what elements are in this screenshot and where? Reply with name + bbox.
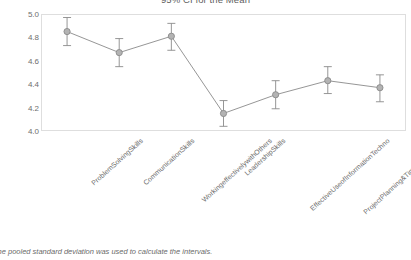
y-axis-tick: 5.0 (9, 10, 39, 19)
chart-title: 95% CI for the Mean (0, 0, 411, 5)
data-point-marker (377, 85, 383, 91)
x-axis-category-label: ProblemSolvingSkills (90, 137, 144, 187)
x-axis-category-label: WorkingeffectivelywithOthers (201, 137, 274, 203)
data-point-marker (220, 110, 226, 116)
y-axis-tick: 4.6 (9, 56, 39, 65)
y-axis-tick: 4.0 (9, 127, 39, 136)
x-axis-category-label: ProjectPlanning&TimeManagemen (362, 137, 411, 215)
chart-footnote: The pooled standard deviation was used t… (0, 247, 212, 256)
data-point-marker (273, 92, 279, 98)
data-point-marker (168, 33, 174, 39)
y-axis-tick: 4.2 (9, 103, 39, 112)
data-point-marker (116, 50, 122, 56)
chart-container: 95% CI for the Mean Data 5.04.84.64.44.2… (0, 0, 411, 260)
x-axis-category-label: CommunicationSkills (142, 137, 196, 186)
interval-plot-series (41, 14, 406, 131)
y-axis-tick: 4.8 (9, 33, 39, 42)
y-axis-tick: 4.4 (9, 80, 39, 89)
data-point-marker (325, 78, 331, 84)
data-point-marker (64, 28, 70, 34)
